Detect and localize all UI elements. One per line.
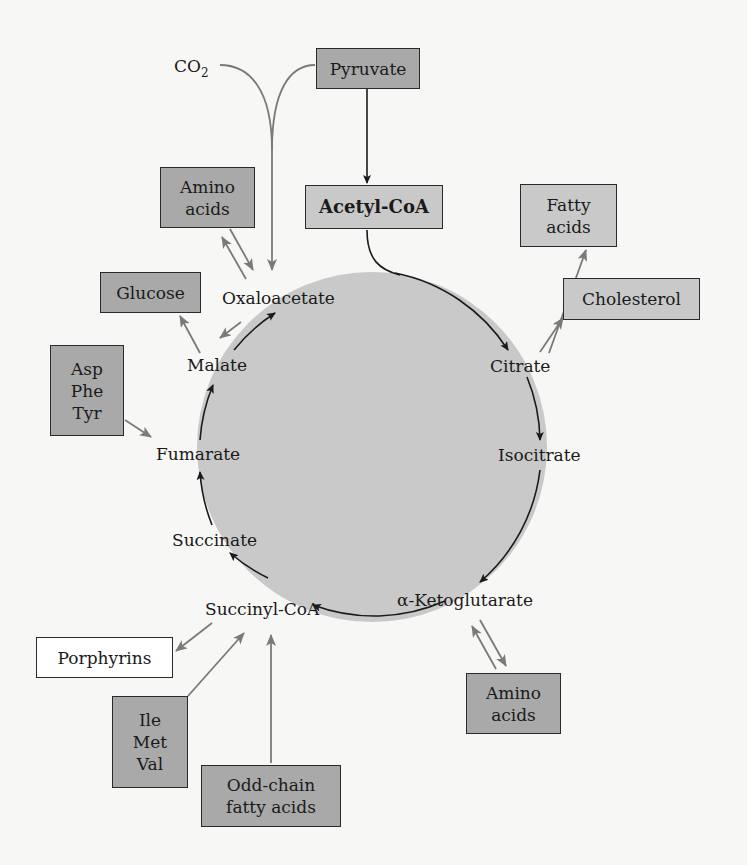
- edge-acetylcoa-citrate: [367, 230, 400, 275]
- edge-pyruvate-merge: [272, 65, 315, 270]
- box-porphyrins: Porphyrins: [36, 637, 173, 678]
- edge-akg-to-aminoacids: [480, 620, 506, 666]
- label-alpha-ketoglutarate: α-Ketoglutarate: [397, 590, 533, 610]
- cycle-disk: [197, 272, 547, 622]
- label-oxaloacetate: Oxaloacetate: [222, 288, 335, 308]
- box-glucose-label: Glucose: [116, 282, 185, 304]
- box-amino-acids-bottom: Amino acids: [466, 673, 561, 734]
- line: Amino: [180, 176, 235, 198]
- line: Tyr: [71, 402, 103, 424]
- label-isocitrate: Isocitrate: [498, 445, 581, 465]
- box-odd-chain-fatty-acids: Odd-chain fatty acids: [201, 765, 341, 827]
- box-pyruvate-label: Pyruvate: [330, 58, 407, 80]
- label-citrate: Citrate: [490, 356, 550, 376]
- box-pyruvate: Pyruvate: [316, 48, 420, 89]
- edge-aminoacids-to-oaa: [230, 229, 253, 270]
- box-amino-acids-top: Amino acids: [160, 167, 255, 228]
- edge-ile-succinylcoa: [188, 633, 244, 696]
- label-fumarate: Fumarate: [156, 444, 240, 464]
- edge-aminoacids-to-akg: [472, 626, 496, 669]
- edge-co2-merge: [220, 65, 272, 150]
- box-acetyl-coa: Acetyl-CoA: [305, 185, 443, 229]
- line: Met: [133, 731, 167, 753]
- label-succinyl-coa: Succinyl-CoA: [205, 599, 319, 619]
- label-succinate: Succinate: [172, 530, 257, 550]
- box-porphyrins-label: Porphyrins: [58, 647, 152, 669]
- box-glucose: Glucose: [100, 272, 201, 313]
- edge-citrate-cholesterol-line: [564, 318, 571, 350]
- line: Amino: [486, 682, 541, 704]
- line: acids: [546, 216, 591, 238]
- box-ile-met-val: Ile Met Val: [112, 696, 188, 788]
- box-fatty-acids: Fatty acids: [520, 184, 617, 247]
- line: fatty acids: [226, 796, 316, 818]
- line: Fatty: [546, 194, 591, 216]
- line: acids: [486, 704, 541, 726]
- line: Ile: [133, 709, 167, 731]
- edge-citrate-cholesterol: [563, 325, 570, 353]
- line: Asp: [71, 358, 103, 380]
- edge-malate-glucose: [180, 316, 200, 353]
- box-cholesterol-label: Cholesterol: [582, 288, 681, 310]
- line: acids: [180, 198, 235, 220]
- box-cholesterol: Cholesterol: [563, 278, 700, 320]
- line: Odd-chain: [226, 774, 316, 796]
- edge-oaa-to-aminoacids: [222, 237, 246, 279]
- label-malate: Malate: [187, 355, 247, 375]
- co2-label: CO2: [174, 56, 209, 80]
- line: Phe: [71, 380, 103, 402]
- edge-asp-fumarate: [125, 420, 151, 437]
- box-acetyl-coa-label: Acetyl-CoA: [319, 196, 429, 218]
- line: Val: [133, 753, 167, 775]
- box-asp-phe-tyr: Asp Phe Tyr: [50, 345, 124, 436]
- edge-succinylcoa-porphyrins: [176, 623, 212, 651]
